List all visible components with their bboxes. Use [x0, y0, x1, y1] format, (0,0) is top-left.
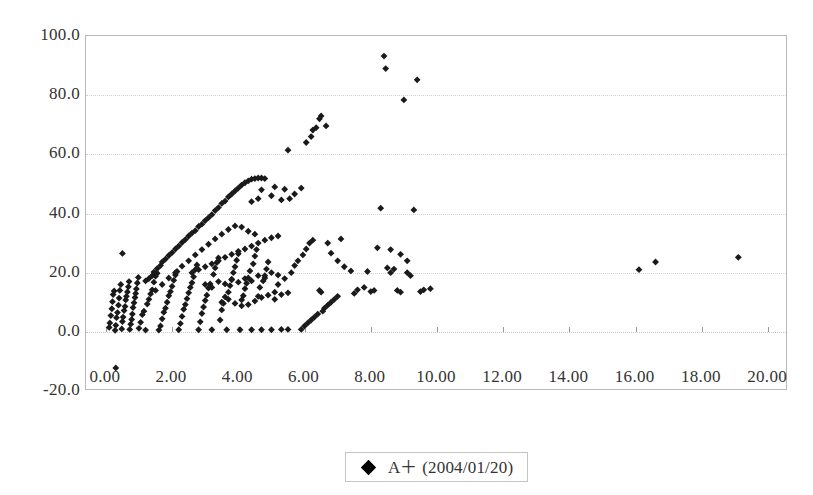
data-point	[179, 263, 186, 270]
data-point	[308, 133, 315, 140]
data-point	[108, 305, 115, 312]
data-point	[225, 226, 232, 233]
data-point	[291, 191, 298, 198]
data-point	[410, 207, 417, 214]
data-point	[278, 291, 285, 298]
data-point	[271, 289, 278, 296]
y-axis-tick-label: 80.0	[2, 85, 80, 102]
data-point	[134, 280, 141, 287]
data-point	[299, 252, 306, 259]
data-point	[112, 322, 119, 329]
data-point	[237, 326, 244, 333]
data-point	[381, 53, 388, 60]
data-point	[175, 326, 182, 333]
data-point	[222, 254, 229, 261]
data-point	[200, 304, 207, 311]
data-point	[328, 250, 335, 257]
data-point	[230, 269, 237, 276]
data-points-layer	[86, 36, 788, 391]
data-point	[400, 97, 407, 104]
data-point	[184, 295, 191, 302]
chart-legend: A＋ (2004/01/20)	[345, 452, 528, 482]
data-point	[414, 76, 421, 83]
data-point	[150, 279, 157, 286]
data-point	[338, 236, 345, 243]
data-point	[228, 251, 235, 258]
data-point	[115, 302, 122, 309]
data-point	[735, 254, 742, 261]
data-point	[116, 287, 123, 294]
data-point	[218, 231, 225, 238]
data-point	[238, 224, 245, 231]
data-point	[324, 240, 331, 247]
data-point	[195, 326, 202, 333]
x-axis-tick-label: 20.00	[722, 368, 812, 385]
data-point	[427, 285, 434, 292]
data-point	[255, 195, 262, 202]
data-point	[136, 325, 143, 332]
y-axis-tick-label: 0.0	[2, 322, 80, 339]
data-point	[215, 278, 222, 285]
data-point	[235, 279, 242, 286]
data-point	[117, 281, 124, 288]
data-point	[268, 269, 275, 276]
y-axis-tick-label: 40.0	[2, 204, 80, 221]
data-point	[192, 252, 199, 259]
data-point	[334, 257, 341, 264]
data-point	[348, 267, 355, 274]
scatter-chart: 100.080.060.040.020.00.0-20.0 0.002.004.…	[0, 0, 813, 495]
data-point	[341, 263, 348, 270]
data-point	[129, 311, 136, 318]
data-point	[258, 326, 265, 333]
data-point	[268, 326, 275, 333]
data-point	[210, 271, 217, 278]
data-point	[286, 195, 293, 202]
data-point	[265, 259, 272, 266]
data-point	[245, 228, 252, 235]
data-point	[303, 139, 310, 146]
data-point	[232, 223, 239, 230]
data-point	[281, 275, 288, 282]
data-point	[258, 186, 265, 193]
data-point	[212, 236, 219, 243]
data-point	[245, 301, 252, 308]
data-point	[135, 274, 142, 281]
legend-entry-label: A＋ (2004/01/20)	[388, 459, 513, 476]
data-point	[397, 251, 404, 258]
data-point	[285, 147, 292, 154]
data-point	[133, 286, 140, 293]
data-point	[126, 278, 133, 285]
data-point	[285, 289, 292, 296]
data-point	[247, 267, 254, 274]
data-point	[323, 123, 330, 130]
plot-area	[85, 35, 787, 390]
data-point	[248, 198, 255, 205]
data-point	[232, 263, 239, 270]
data-point	[268, 234, 275, 241]
data-point	[125, 283, 132, 290]
data-point	[197, 318, 204, 325]
data-point	[253, 246, 260, 253]
data-point	[275, 233, 282, 240]
data-point	[271, 183, 278, 190]
data-point	[179, 313, 186, 320]
data-point	[255, 240, 262, 247]
data-point	[242, 285, 249, 292]
data-point	[116, 295, 123, 302]
data-point	[255, 272, 262, 279]
data-point	[159, 315, 166, 322]
data-point	[275, 272, 282, 279]
data-point	[377, 205, 384, 212]
data-point	[109, 298, 116, 305]
data-point	[232, 300, 239, 307]
data-point	[248, 326, 255, 333]
data-point	[164, 299, 171, 306]
data-point	[278, 326, 285, 333]
data-point	[118, 325, 125, 332]
data-point	[106, 320, 113, 327]
data-point	[208, 326, 215, 333]
data-point	[218, 307, 225, 314]
data-point	[303, 246, 310, 253]
data-point	[205, 241, 212, 248]
data-point	[128, 316, 135, 323]
